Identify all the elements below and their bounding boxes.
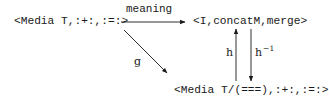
meaning-label: meaning [126,3,172,15]
g-label: g [134,56,141,68]
target-node: <I,concatM,merge> [193,14,307,28]
h-inverse-superscript: −1 [263,44,274,53]
h-inverse-label: h−1 [255,47,274,60]
quotient-node: <Media T/(===),:+:,:=:> [174,83,328,97]
g-arrow [124,30,167,73]
source-node: <Media T,:+:,:=:> [14,14,128,28]
h-label: h [226,47,233,59]
h-inverse-base: h [255,46,262,59]
